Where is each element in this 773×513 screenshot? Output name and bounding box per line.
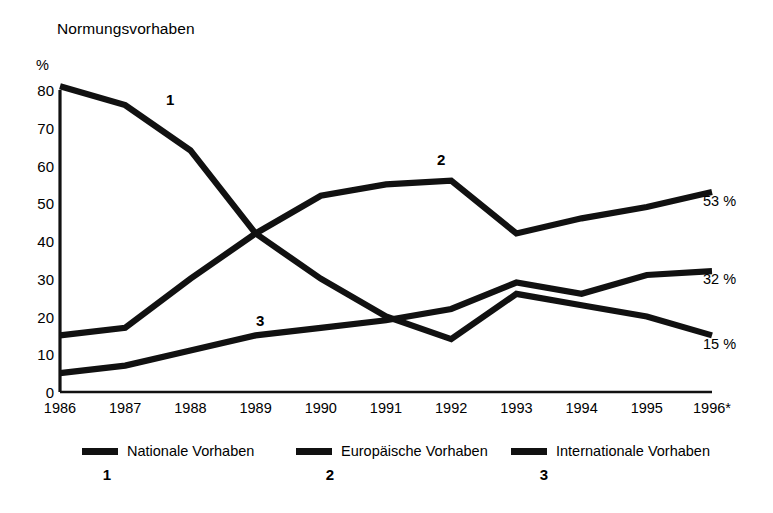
chart-figure: Normungsvorhaben % 01020304050607080 198… bbox=[0, 0, 773, 513]
end-value-label-32: 32 % bbox=[703, 272, 736, 287]
x-axis-tick-1992: 1992 bbox=[435, 400, 467, 416]
x-axis-tick-1989: 1989 bbox=[239, 400, 271, 416]
x-axis-tick-1986: 1986 bbox=[44, 400, 76, 416]
legend-line-swatch-icon bbox=[511, 448, 547, 455]
y-axis-tick-40: 40 bbox=[20, 234, 54, 249]
x-axis-tick-1991: 1991 bbox=[370, 400, 402, 416]
y-axis-tick-60: 60 bbox=[20, 159, 54, 174]
legend-item-2[interactable]: Europäische Vorhaben bbox=[296, 443, 488, 459]
plot-area bbox=[0, 0, 773, 513]
legend-label: Nationale Vorhaben bbox=[127, 443, 254, 459]
series-annotation-1: 1 bbox=[166, 92, 174, 107]
y-axis-tick-30: 30 bbox=[20, 272, 54, 287]
y-axis-tick-50: 50 bbox=[20, 196, 54, 211]
y-axis-tick-10: 10 bbox=[20, 347, 54, 362]
y-axis-tick-70: 70 bbox=[20, 121, 54, 136]
end-value-label-53: 53 % bbox=[703, 194, 736, 209]
y-axis-tick-80: 80 bbox=[20, 83, 54, 98]
legend-item-1[interactable]: Nationale Vorhaben bbox=[82, 443, 254, 459]
chart-legend: Nationale Vorhaben1Europäische Vorhaben2… bbox=[0, 443, 773, 513]
legend-number-2: 2 bbox=[326, 467, 334, 483]
x-axis-tick-1995: 1995 bbox=[631, 400, 663, 416]
x-axis-tick-1988: 1988 bbox=[174, 400, 206, 416]
series-annotation-3: 3 bbox=[256, 313, 264, 328]
x-axis-tick-1994: 1994 bbox=[565, 400, 597, 416]
legend-number-3: 3 bbox=[540, 467, 548, 483]
x-axis-tick-1987: 1987 bbox=[109, 400, 141, 416]
legend-line-swatch-icon bbox=[296, 448, 332, 455]
legend-line-swatch-icon bbox=[82, 448, 118, 455]
legend-label: Europäische Vorhaben bbox=[341, 443, 488, 459]
y-axis-tick-0: 0 bbox=[20, 385, 54, 400]
legend-item-3[interactable]: Internationale Vorhaben bbox=[511, 443, 710, 459]
legend-label: Internationale Vorhaben bbox=[556, 443, 710, 459]
x-axis-tick-1996: 1996* bbox=[693, 400, 731, 416]
x-axis-tick-1993: 1993 bbox=[500, 400, 532, 416]
series-line-internationale-vorhaben bbox=[60, 271, 712, 373]
end-value-label-15: 15 % bbox=[703, 337, 736, 352]
y-axis-tick-20: 20 bbox=[20, 310, 54, 325]
x-axis-tick-1990: 1990 bbox=[305, 400, 337, 416]
legend-number-1: 1 bbox=[103, 467, 111, 483]
series-annotation-2: 2 bbox=[437, 152, 445, 167]
